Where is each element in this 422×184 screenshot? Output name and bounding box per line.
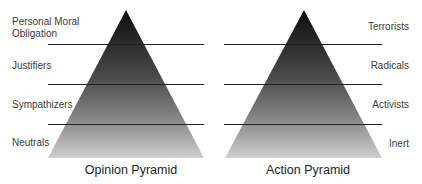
action-level-terrorists: Terrorists: [368, 21, 409, 33]
action-pyramid-title: Action Pyramid: [258, 163, 358, 177]
opinion-level-justifiers: Justifiers: [12, 60, 51, 72]
action-level-activists: Activists: [372, 99, 409, 111]
opinion-level-label-line2: Obligation: [12, 28, 79, 40]
opinion-pyramid-title: Opinion Pyramid: [76, 163, 186, 177]
action-level-inert: Inert: [389, 138, 409, 150]
opinion-level-personal-moral-obligation: Personal Moral Obligation: [12, 16, 79, 40]
opinion-level-label-line1: Personal Moral: [12, 16, 79, 28]
action-level-radicals: Radicals: [371, 60, 409, 72]
opinion-level-neutrals: Neutrals: [12, 137, 49, 149]
opinion-level-sympathizers: Sympathizers: [12, 99, 73, 111]
